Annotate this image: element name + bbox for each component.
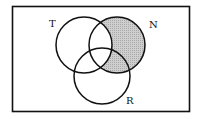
venn-diagram: T N R (0, 0, 200, 119)
label-t: T (49, 18, 56, 29)
label-n: N (149, 19, 158, 30)
label-r: R (126, 95, 134, 106)
